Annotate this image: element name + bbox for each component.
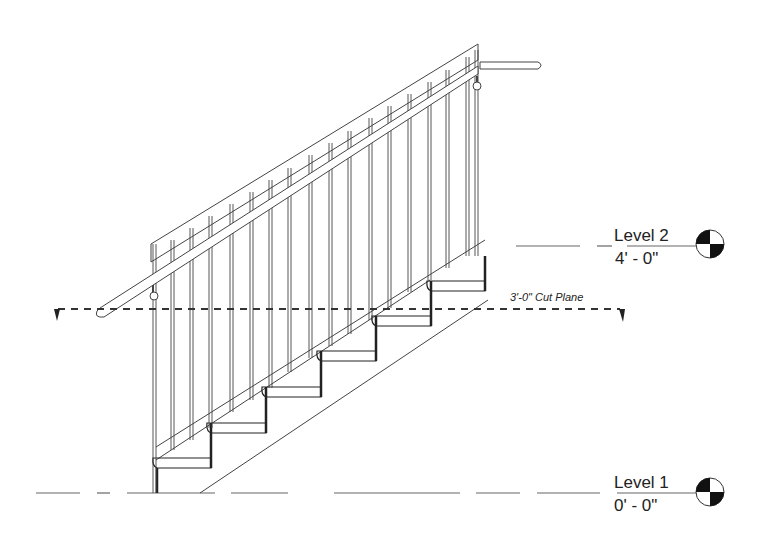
level-2-tag[interactable]: Level 2 4' - 0": [614, 226, 724, 268]
stair-steps: [153, 256, 485, 493]
cut-plane-right-marker-icon: [619, 309, 625, 322]
cut-plane-left-marker-icon: [54, 309, 60, 321]
railing-balusters: [153, 50, 478, 493]
guard-top-rail: [151, 44, 478, 262]
guard-bottom-rail: [156, 240, 485, 447]
level-2-name[interactable]: Level 2: [614, 226, 669, 245]
stair-section-drawing: 3'-0" Cut Plane Level 2 4' - 0" Level 1 …: [0, 0, 767, 542]
cut-plane-label: 3'-0" Cut Plane: [510, 291, 583, 303]
level-1-name[interactable]: Level 1: [614, 473, 669, 492]
level-2-datum-icon: [696, 230, 724, 258]
level-2-elevation[interactable]: 4' - 0": [615, 249, 658, 268]
level-1-datum-icon: [696, 478, 724, 506]
level-1-elevation[interactable]: 0' - 0": [614, 496, 657, 515]
cut-plane-line: [54, 309, 625, 322]
handrail: [96, 62, 541, 317]
level-1-tag[interactable]: Level 1 0' - 0": [614, 473, 724, 515]
